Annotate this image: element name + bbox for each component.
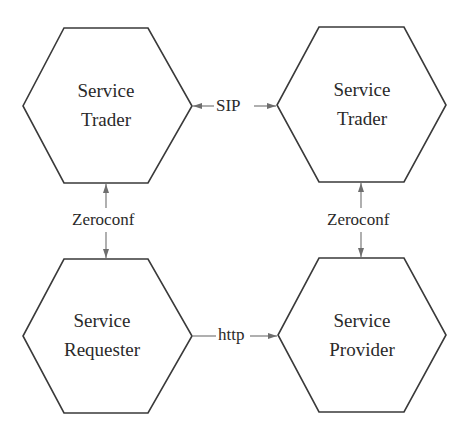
edge-label-sip: SIP (214, 96, 243, 116)
node-service-trader-left: Service Trader (46, 76, 166, 134)
edge-label-zeroconf-right: Zeroconf (325, 210, 391, 230)
arrow-right-icon (268, 333, 277, 339)
edge-label-http: http (216, 325, 246, 345)
edge-label-zeroconf-left: Zeroconf (70, 210, 136, 230)
node-label-line2: Trader (302, 104, 422, 133)
node-service-requester: Service Requester (42, 306, 162, 364)
node-label-line2: Requester (42, 335, 162, 364)
arrow-right-icon (267, 103, 276, 109)
node-service-provider: Service Provider (302, 306, 422, 364)
node-label-line2: Provider (302, 335, 422, 364)
arrow-up-icon (103, 184, 109, 193)
node-label-line1: Service (46, 76, 166, 105)
arrow-up-icon (358, 183, 364, 192)
node-label-line2: Trader (46, 105, 166, 134)
node-label-line1: Service (302, 306, 422, 335)
arrow-down-icon (358, 248, 364, 257)
node-service-trader-right: Service Trader (302, 75, 422, 133)
arrow-left-icon (193, 103, 202, 109)
node-label-line1: Service (302, 75, 422, 104)
node-label-line1: Service (42, 306, 162, 335)
arrow-down-icon (103, 249, 109, 258)
